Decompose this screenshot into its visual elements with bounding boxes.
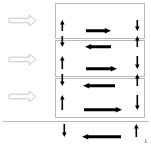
label-layer: 1 [0, 0, 151, 147]
index-label-1: 1 [144, 138, 147, 144]
sequence-diagram: 1 [0, 0, 151, 147]
